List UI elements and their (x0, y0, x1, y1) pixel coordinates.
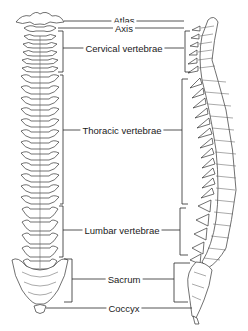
label-lumbar-vertebrae: Lumbar vertebrae (83, 225, 162, 236)
sacrum-lateral (188, 262, 212, 318)
label-thoracic-vertebrae: Thoracic vertebrae (80, 125, 163, 136)
lateral-spine (188, 17, 236, 324)
leader-lines (46, 21, 192, 308)
label-axis: Axis (113, 23, 135, 34)
anterior-spine (12, 12, 68, 313)
coccyx-anterior (34, 305, 46, 314)
coccyx-lateral (193, 316, 199, 324)
label-cervical-vertebrae: Cervical vertebrae (83, 43, 164, 54)
label-sacrum: Sacrum (106, 274, 143, 285)
label-coccyx: Coccyx (106, 303, 141, 314)
